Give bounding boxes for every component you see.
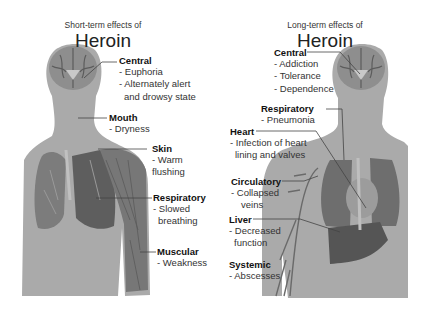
effect-item: - Warm	[152, 154, 185, 166]
right-subtitle: Long-term effects of	[270, 20, 380, 30]
effect-item: - Addiction	[274, 58, 334, 70]
effect-item: - Infection of heart	[230, 137, 307, 149]
effect-item: - Collapsed	[231, 187, 281, 199]
right-section-respiratory: Respiratory - Pneumonia	[261, 103, 315, 126]
section-label: Skin	[152, 143, 185, 154]
section-label: Central	[119, 55, 196, 66]
effect-item: flushing	[152, 166, 185, 178]
right-section-central: Central - Addiction - Tolerance - Depend…	[274, 47, 334, 95]
section-label: Circulatory	[231, 176, 281, 187]
right-section-circulatory: Circulatory - Collapsed veins	[231, 176, 281, 212]
right-section-systemic: Systemic - Abscesses	[229, 259, 280, 282]
section-label: Heart	[230, 126, 307, 137]
left-section-respiratory: Respiratory - Slowed breathing	[153, 192, 206, 228]
effect-item: - Weakness	[157, 257, 207, 269]
effect-item: - Tolerance	[274, 70, 334, 82]
section-label: Respiratory	[261, 103, 315, 114]
left-section-central: Central - Euphoria - Alternately alert a…	[119, 55, 196, 103]
section-label: Muscular	[157, 246, 207, 257]
effect-item: - Dryness	[109, 123, 150, 135]
effect-item: - Slowed	[153, 203, 206, 215]
section-label: Central	[274, 47, 334, 58]
section-label: Mouth	[109, 112, 150, 123]
left-section-muscular: Muscular - Weakness	[157, 246, 207, 269]
effect-item: veins	[231, 199, 281, 211]
right-brain-icon	[337, 46, 385, 90]
effect-item: and drowsy state	[119, 91, 196, 103]
section-label: Systemic	[229, 259, 280, 270]
effect-item: function	[229, 237, 281, 249]
left-title: Heroin	[48, 31, 158, 50]
effect-item: - Abscesses	[229, 270, 280, 282]
effect-item: - Decreased	[229, 225, 281, 237]
right-section-liver: Liver - Decreased function	[229, 214, 281, 250]
effect-item: breathing	[153, 215, 206, 227]
left-section-skin: Skin - Warm flushing	[152, 143, 185, 179]
effect-item: - Pneumonia	[261, 114, 315, 126]
section-label: Liver	[229, 214, 281, 225]
left-subtitle: Short-term effects of	[48, 20, 158, 30]
section-label: Respiratory	[153, 192, 206, 203]
effect-item: lining and valves	[230, 149, 307, 161]
right-section-heart: Heart - Infection of heart lining and va…	[230, 126, 307, 162]
effect-item: - Euphoria	[119, 66, 196, 78]
left-section-mouth: Mouth - Dryness	[109, 112, 150, 135]
left-brain-icon	[49, 46, 97, 90]
effect-item: - Dependence	[274, 83, 334, 95]
effect-item: - Alternately alert	[119, 78, 196, 90]
